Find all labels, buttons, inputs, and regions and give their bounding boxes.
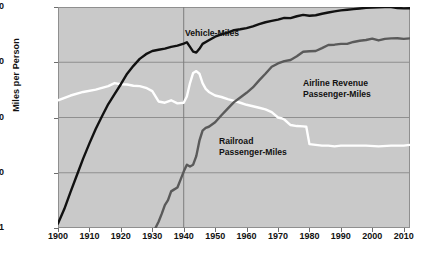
series-label-line: Airline Revenue [303, 78, 371, 89]
series-label-line: Railroad [219, 136, 287, 147]
x-tick-label: 2010 [384, 231, 424, 241]
series-line-vehicle-miles [58, 7, 410, 224]
x-tick-mark [121, 228, 122, 232]
plot-area [58, 7, 410, 228]
chart-figure: Miles per Person 100001000100101 1900191… [0, 0, 424, 255]
x-tick-mark [152, 228, 153, 232]
x-tick-mark [341, 228, 342, 232]
x-tick-mark [247, 228, 248, 232]
x-tick-mark [215, 228, 216, 232]
y-tick-label: 1 [0, 222, 4, 232]
y-tick-label: 100 [0, 112, 4, 122]
x-tick-mark [372, 228, 373, 232]
x-tick-mark [89, 228, 90, 232]
series-label-vehicle-miles: Vehicle-Miles [185, 28, 239, 39]
series-label-line: Passenger-Miles [219, 147, 287, 158]
y-tick-label: 10 [0, 167, 4, 177]
series-label-railroad-passenger-miles: RailroadPassenger-Miles [219, 136, 287, 157]
y-axis-title: Miles per Person [11, 15, 21, 135]
chart-canvas [58, 7, 410, 228]
x-tick-mark [184, 228, 185, 232]
series-line-airline-revenue-passenger-miles [155, 38, 410, 228]
x-tick-mark [404, 228, 405, 232]
x-tick-mark [58, 228, 59, 232]
series-label-airline-revenue-passenger-miles: Airline RevenuePassenger-Miles [303, 78, 371, 99]
y-tick-label: 10000 [0, 1, 4, 11]
series-label-line: Passenger-Miles [303, 89, 371, 100]
series-label-line: Vehicle-Miles [185, 28, 239, 39]
y-tick-label: 1000 [0, 56, 4, 66]
x-tick-mark [278, 228, 279, 232]
x-tick-mark [309, 228, 310, 232]
